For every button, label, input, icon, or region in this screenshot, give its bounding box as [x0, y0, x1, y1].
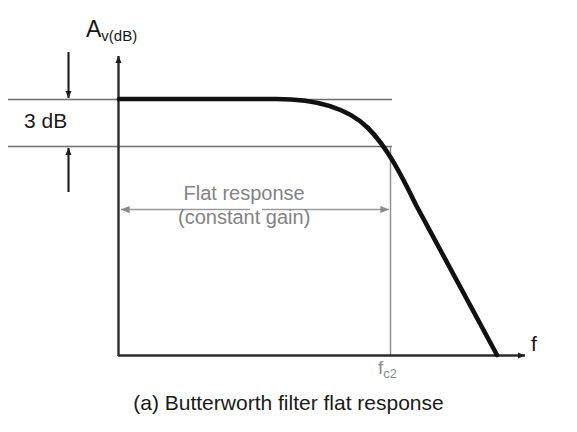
flat-response-line-2: (constant gain)	[178, 206, 310, 230]
flat-response-line-1: Flat response	[184, 182, 305, 204]
x-axis-label: f	[531, 333, 537, 354]
y-axis-label-subscript: v(dB)	[101, 27, 137, 44]
figure-caption: (a) Butterworth filter flat response	[0, 392, 577, 413]
three-db-annotation-label: 3 dB	[24, 110, 67, 131]
cutoff-frequency-label-subscript: c2	[383, 366, 397, 381]
y-axis-label-main: A	[86, 16, 101, 42]
cutoff-frequency-label: fc2	[378, 358, 397, 377]
y-axis-label: Av(dB)	[86, 18, 137, 41]
butterworth-response-figure: Av(dB) f 3 dB Flat response(constant gai…	[0, 0, 577, 432]
flat-response-annotation-label: Flat response(constant gain)	[178, 182, 310, 229]
